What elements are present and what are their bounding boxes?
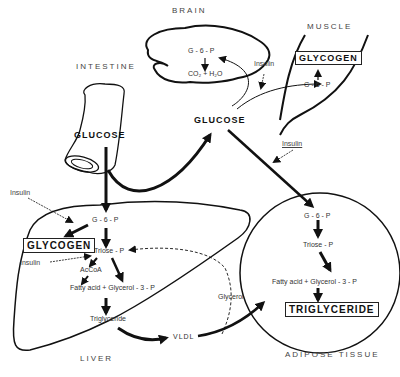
liver-insulin-top: Insulin (10, 189, 30, 196)
region-label-muscle: MUSCLE (307, 22, 352, 31)
blood-glucose: GLUCOSE (194, 115, 246, 125)
liver-insulin-bottom: Insulin (20, 259, 40, 266)
brain-g6p: G - 6 - P (188, 47, 214, 54)
insulin-muscle-pointer (261, 74, 264, 88)
arrow-triglyceride-to-vldl (118, 328, 166, 340)
arrow-triose-to-accoa (90, 258, 97, 266)
intestine-glucose: GLUCOSE (74, 130, 126, 140)
intestine-outline (65, 84, 124, 174)
adipose-g6p: G - 6 - P (304, 212, 330, 219)
liver-glycerol: Glycerol (218, 293, 244, 300)
adipose-fatty-acid-glycerol3p: Fatty acid + Glycerol - 3 - P (272, 278, 357, 285)
liver-outline (13, 202, 250, 351)
liver-glycogen: GLYCOGEN (23, 238, 95, 253)
liver-fatty-acid-glycerol3p: Fatty acid + Glycerol - 3 - P (70, 284, 155, 291)
insulin-liver-top-pointer (28, 198, 72, 222)
region-label-intestine: INTESTINE (76, 62, 136, 71)
muscle-glycogen: GLYCOGEN (295, 51, 362, 65)
liver-accoa: AcCoA (80, 266, 102, 273)
adipose-triose-p: Triose - P (303, 241, 333, 248)
insulin-liver-bottom-pointer (50, 256, 90, 262)
brain-co2-h2o: CO₂ + H₂O (188, 70, 222, 77)
arrow-triose-to-glycerol3p (112, 258, 122, 280)
intestine-opening (64, 153, 100, 175)
liver-triglyceride: Triglyceride (90, 315, 126, 322)
liver-triose-p: Triose - P (94, 247, 124, 254)
glycerol-return-dashed (130, 248, 231, 334)
region-label-brain: BRAIN (172, 6, 206, 15)
muscle-insulin: Insulin (254, 60, 274, 67)
arrow-g6p-to-glycogen (66, 225, 88, 236)
adipose-insulin: Insulin (282, 140, 302, 147)
adipose-triglyceride: TRIGLYCERIDE (285, 302, 379, 317)
insulin-adipose-pointer (274, 150, 293, 162)
liver-vldl: VLDL (173, 333, 195, 340)
region-label-liver: LIVER (80, 354, 113, 363)
region-label-adipose: ADIPOSE TISSUE (285, 350, 380, 359)
liver-g6p: G - 6 - P (92, 216, 118, 223)
muscle-g6p: G - 6 - P (304, 81, 330, 88)
arrow-accoa-to-fattyacid (82, 276, 88, 284)
muscle-left-line (280, 35, 305, 120)
arrow-intestine-to-blood-glucose (108, 135, 210, 191)
arrow-adipose-triose-to-glycerol3p (320, 252, 330, 270)
